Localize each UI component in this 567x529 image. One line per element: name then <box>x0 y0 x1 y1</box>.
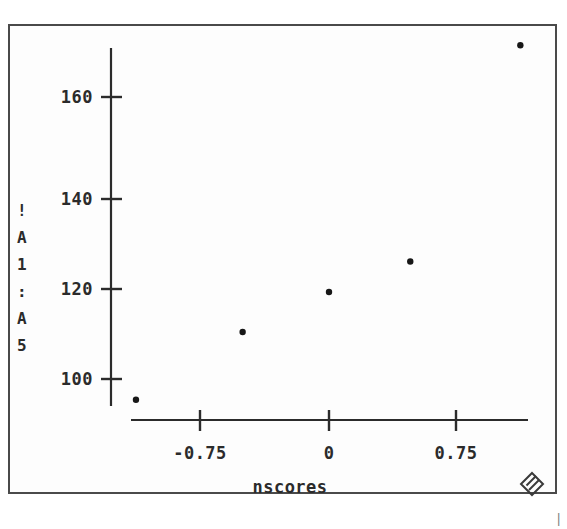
data-point <box>517 42 523 48</box>
y-tick-label-140: 140 <box>61 189 93 209</box>
y-tick-label-100: 100 <box>61 369 93 389</box>
data-point <box>407 258 413 264</box>
x-tick-label-075: 0.75 <box>435 443 478 463</box>
y-axis-title-char-1: A <box>17 228 27 247</box>
plot-window: 160 140 120 100 ! A 1 : A 5 -0.75 0 0.75… <box>0 0 567 529</box>
resize-grip-diamond-icon[interactable] <box>518 470 546 498</box>
data-point <box>239 329 245 335</box>
y-axis-title-char-4: A <box>17 309 27 328</box>
data-point <box>133 396 139 402</box>
y-tick-label-120: 120 <box>61 279 93 299</box>
x-tick-label-neg075: -0.75 <box>173 443 227 463</box>
x-tick-label-zero: 0 <box>324 443 335 463</box>
data-points-layer <box>133 42 524 403</box>
y-axis-title-char-5: 5 <box>17 336 27 355</box>
x-axis-title: nscores <box>252 477 327 497</box>
y-tick-label-160: 160 <box>61 87 93 107</box>
plot-canvas: 160 140 120 100 ! A 1 : A 5 -0.75 0 0.75… <box>0 0 567 529</box>
y-axis-title-char-0: ! <box>17 201 27 220</box>
y-axis-title-char-3: : <box>17 282 27 301</box>
y-axis-title-char-2: 1 <box>17 255 27 274</box>
data-point <box>326 289 332 295</box>
scan-stray-mark: | <box>543 511 561 527</box>
